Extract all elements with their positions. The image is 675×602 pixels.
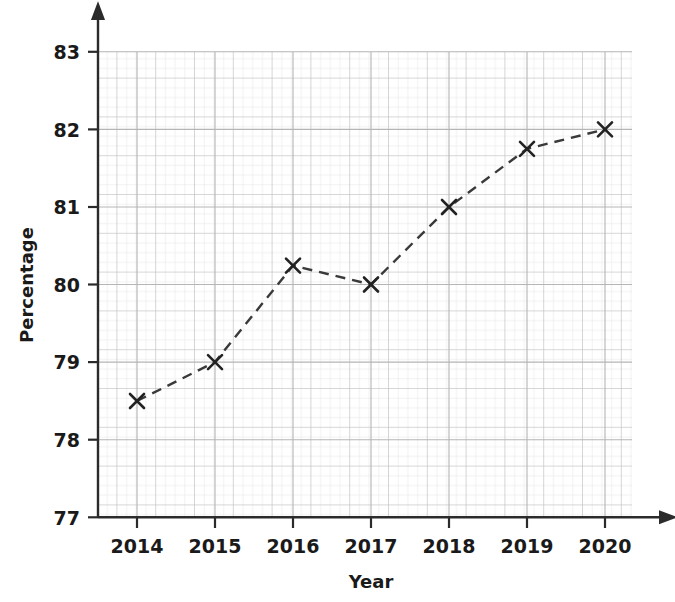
x-tick-label: 2017 xyxy=(345,535,398,557)
x-tick-label: 2020 xyxy=(579,535,632,557)
x-tick-label: 2016 xyxy=(267,535,320,557)
y-tick-label: 77 xyxy=(54,507,80,529)
y-tick-label: 82 xyxy=(54,119,80,141)
x-tick-labels: 2014 2015 2016 2017 2018 2019 2020 xyxy=(111,535,632,557)
y-tick-labels: 83 82 81 80 79 78 77 xyxy=(54,41,80,529)
y-tick-label: 83 xyxy=(54,41,80,63)
x-tick-label: 2015 xyxy=(189,535,242,557)
x-ticks xyxy=(137,517,605,528)
y-tick-label: 79 xyxy=(54,351,80,373)
x-axis-title: Year xyxy=(348,571,394,592)
y-ticks xyxy=(88,52,98,518)
x-tick-label: 2014 xyxy=(111,535,164,557)
y-tick-label: 78 xyxy=(54,429,80,451)
y-axis-title: Percentage xyxy=(16,227,37,343)
chart-plot-area: 83 82 81 80 79 78 77 2014 2015 2016 2017… xyxy=(0,0,675,602)
x-tick-label: 2019 xyxy=(501,535,554,557)
y-tick-label: 80 xyxy=(54,274,80,296)
line-chart: 83 82 81 80 79 78 77 2014 2015 2016 2017… xyxy=(0,0,675,602)
x-tick-label: 2018 xyxy=(423,535,476,557)
y-tick-label: 81 xyxy=(54,196,80,218)
